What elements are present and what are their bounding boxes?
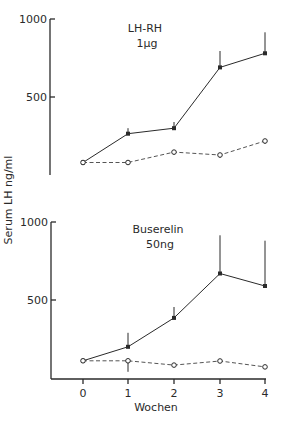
data-point-open xyxy=(81,359,86,364)
treated-line xyxy=(83,53,265,162)
x-tick-label: 4 xyxy=(262,387,269,400)
top-panel: 1000 500 LH-RH 1µg xyxy=(19,13,267,175)
top-y-tick-label-1000: 1000 xyxy=(19,13,47,26)
data-point-filled xyxy=(172,316,176,320)
data-point-filled xyxy=(263,51,267,55)
top-panel-label-line1: LH-RH xyxy=(128,22,162,35)
chart-figure: Serum LH ng/ml 1000 500 LH-RH 1µg 1000 5… xyxy=(0,0,282,427)
data-point-filled xyxy=(172,126,176,130)
bottom-series-group xyxy=(81,235,268,371)
data-point-open xyxy=(126,160,131,165)
data-point-open xyxy=(81,160,86,165)
data-point-open xyxy=(218,153,223,158)
x-tick-label: 0 xyxy=(80,387,87,400)
x-tick-label: 1 xyxy=(125,387,132,400)
data-point-open xyxy=(172,363,177,368)
y-axis-label: Serum LH ng/ml xyxy=(2,156,15,245)
data-point-open xyxy=(263,365,268,370)
bottom-panel-label-line2: 50ng xyxy=(146,238,174,251)
x-axis-label: Wochen xyxy=(134,401,178,414)
x-tick-label: 3 xyxy=(217,387,224,400)
data-point-filled xyxy=(218,65,222,69)
data-point-filled xyxy=(263,284,267,288)
data-point-filled xyxy=(126,345,130,349)
data-point-filled xyxy=(126,132,130,136)
data-point-open xyxy=(218,359,223,364)
bottom-y-tick-label-500: 500 xyxy=(27,294,48,307)
data-point-open xyxy=(263,139,268,144)
top-series-group xyxy=(81,32,268,165)
data-point-filled xyxy=(218,272,222,276)
x-tick-label: 2 xyxy=(171,387,178,400)
x-ticks-group: 01234 xyxy=(80,379,269,400)
bottom-y-tick-label-1000: 1000 xyxy=(20,216,48,229)
data-point-open xyxy=(126,359,131,364)
top-y-tick-label-500: 500 xyxy=(26,91,47,104)
bottom-panel: 1000 500 Buserelin 50ng 01234 Wochen xyxy=(20,216,269,414)
bottom-panel-label-line1: Buserelin xyxy=(132,223,183,236)
data-point-open xyxy=(172,150,177,155)
top-panel-label-line2: 1µg xyxy=(137,37,158,50)
